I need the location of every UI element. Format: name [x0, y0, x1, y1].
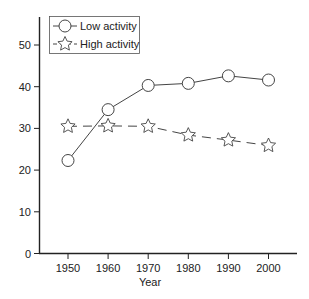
y-tick-label: 10 [19, 206, 31, 218]
series-high-activity [61, 118, 276, 151]
x-tick-label: 1950 [56, 262, 80, 274]
star-marker [61, 119, 75, 133]
star-marker [141, 119, 155, 133]
legend: Low activityHigh activity [50, 17, 140, 54]
star-marker [181, 128, 195, 142]
circle-marker [142, 79, 154, 91]
y-ticks: 01020304050 [19, 39, 40, 260]
series-line [68, 126, 269, 146]
circle-marker [222, 70, 234, 82]
circle-marker [182, 77, 194, 89]
star-marker [261, 138, 275, 152]
y-tick-label: 0 [25, 248, 31, 260]
circle-marker [102, 104, 114, 116]
legend-label: High activity [80, 38, 140, 50]
y-tick-label: 30 [19, 122, 31, 134]
line-chart: 01020304050 195019601970198019902000 Yea… [0, 0, 309, 299]
series-line [68, 76, 269, 161]
x-ticks: 195019601970198019902000 [56, 254, 281, 275]
x-axis-label: Year [139, 276, 162, 288]
x-tick-label: 1980 [176, 262, 200, 274]
legend-label: Low activity [80, 20, 137, 32]
circle-marker [62, 155, 74, 167]
x-tick-label: 1960 [96, 262, 120, 274]
series-layer [61, 70, 276, 167]
star-marker [221, 133, 235, 147]
star-marker [101, 118, 115, 132]
legend-circle-icon [59, 20, 71, 32]
y-tick-label: 20 [19, 164, 31, 176]
x-tick-label: 1990 [216, 262, 240, 274]
circle-marker [263, 74, 275, 86]
y-tick-label: 50 [19, 39, 31, 51]
x-tick-label: 1970 [136, 262, 160, 274]
series-low-activity [62, 70, 275, 167]
x-tick-label: 2000 [256, 262, 280, 274]
y-tick-label: 40 [19, 81, 31, 93]
